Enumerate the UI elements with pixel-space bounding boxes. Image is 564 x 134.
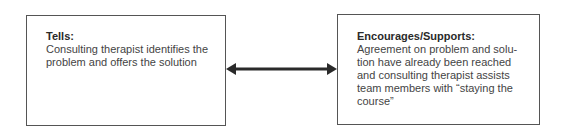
- encourages-description-text: Agreement on problem and solu-tion have …: [357, 43, 517, 107]
- double-arrow-icon: [226, 59, 337, 79]
- tells-box-content: Tells: Consulting therapist identifies t…: [46, 30, 217, 69]
- tells-title: Tells:: [46, 30, 217, 43]
- tells-box: Tells: Consulting therapist identifies t…: [26, 15, 226, 126]
- encourages-title: Encourages/Supports:: [357, 30, 531, 43]
- encourages-box-content: Encourages/Supports: Agreement on proble…: [357, 30, 531, 108]
- encourages-description: Agreement on problem and solu-tion have …: [357, 43, 522, 108]
- encourages-supports-box: Encourages/Supports: Agreement on proble…: [337, 14, 540, 125]
- tells-description: Consulting therapist identifies the prob…: [46, 43, 211, 69]
